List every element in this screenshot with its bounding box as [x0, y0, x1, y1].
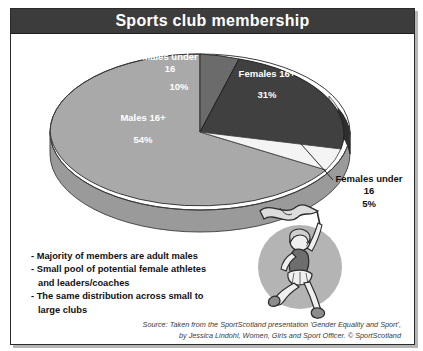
- athlete-shoe-front: [311, 308, 324, 318]
- banner-icon: [260, 205, 318, 220]
- bullet-item-continuation: and leaders/coaches: [31, 277, 291, 290]
- bullet-item: - Small pool of potential female athlete…: [31, 263, 291, 276]
- slide-title-bar: Sports club membership: [11, 9, 414, 34]
- source-line-2: by Jessica Lindohl, Women, Girls and Spo…: [101, 330, 401, 341]
- pie-label-females-under-16-name2: 16: [364, 185, 375, 196]
- slide-frame: Sports club membership: [10, 8, 415, 345]
- page-title: Sports club membership: [115, 13, 309, 29]
- pie-label-females-under-16-value: 5%: [362, 198, 376, 209]
- bullet-item: - Majority of members are adult males: [31, 250, 291, 263]
- bullet-item-continuation: large clubs: [31, 304, 291, 317]
- source-citation: Source: Taken from the SportScotland pre…: [101, 319, 401, 342]
- bullet-item: - The same distribution across small to: [31, 290, 291, 303]
- source-line-1: Source: Taken from the SportScotland pre…: [101, 319, 401, 330]
- pie-label-females-under-16-name: Females under: [335, 173, 402, 184]
- bullet-list: - Majority of members are adult males - …: [31, 250, 291, 317]
- pie-chart: Males under 16 10% Females 16+ 31% Males…: [11, 34, 414, 234]
